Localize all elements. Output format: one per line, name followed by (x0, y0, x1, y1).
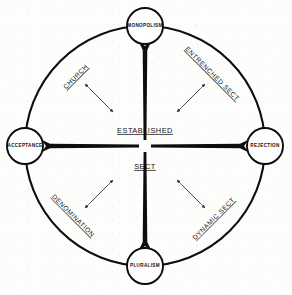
axis-label-sect: SECT (134, 162, 156, 171)
node-monopolism[interactable]: MONOPOLISM (127, 8, 163, 44)
flow-arrows-bottom-right (177, 180, 205, 208)
arrow-church-inward (90, 89, 113, 112)
node-rejection[interactable]: REJECTION (247, 128, 283, 164)
quadrant-label-entrenched-sect: ENTRENCHED SECT (184, 45, 241, 102)
axis-horizontal-left (41, 140, 139, 153)
diagram-canvas: ESTABLISHED SECT CHURCH ENTRENCHED SECT … (0, 0, 292, 295)
quadrant-label-denomination: DENOMINATION (51, 193, 97, 239)
arrow-denomination-inward (90, 180, 113, 203)
node-acceptance[interactable]: ACCEPTANCE (7, 128, 43, 164)
typology-diagram: ESTABLISHED SECT CHURCH ENTRENCHED SECT … (0, 0, 292, 295)
axis-horizontal-right (151, 140, 249, 153)
node-label-monopolism: MONOPOLISM (127, 23, 162, 28)
axis-label-established: ESTABLISHED (117, 126, 173, 135)
flow-arrows-top-left (85, 84, 113, 112)
arrow-dynamic-inward (177, 180, 200, 203)
node-label-pluralism: PLURALISM (130, 263, 160, 268)
quadrant-label-church: CHURCH (62, 63, 89, 90)
flow-arrows-top-right (177, 84, 205, 112)
flow-arrows-bottom-left (85, 180, 113, 208)
node-label-rejection: REJECTION (250, 143, 280, 148)
quadrant-label-dynamic-sect: DYNAMIC SECT (191, 196, 236, 241)
node-label-acceptance: ACCEPTANCE (7, 143, 42, 148)
arrow-entrenched-inward (177, 89, 200, 112)
node-pluralism[interactable]: PLURALISM (127, 248, 163, 284)
